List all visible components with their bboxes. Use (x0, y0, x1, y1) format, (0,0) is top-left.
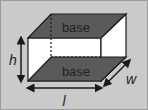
length-label: l (62, 93, 66, 109)
height-label: h (9, 52, 17, 68)
width-label: w (126, 71, 137, 87)
top-base-label: base (62, 20, 90, 35)
prism-diagram: base base h l w (0, 0, 148, 110)
bottom-base-label: base (62, 64, 90, 79)
